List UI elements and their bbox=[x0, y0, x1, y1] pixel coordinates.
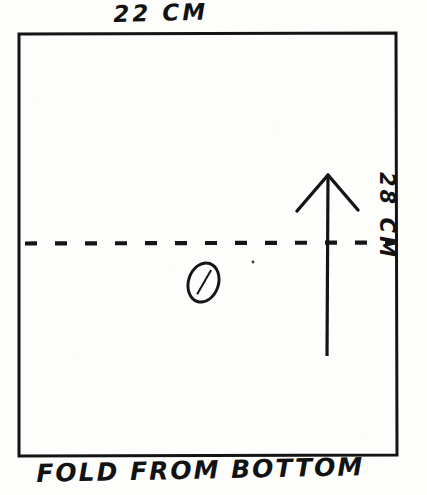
drawing-vector-layer bbox=[0, 0, 427, 495]
fold-arrow-head-left bbox=[297, 175, 328, 211]
sketch-canvas: 22 CM 28 CM FOLD FROM BOTTOM bbox=[0, 0, 427, 495]
stray-ink-dot bbox=[252, 261, 255, 264]
fold-dashed-line bbox=[25, 243, 396, 244]
fold-arrow-shaft bbox=[327, 176, 328, 356]
fold-arrow-head-right bbox=[328, 175, 358, 210]
